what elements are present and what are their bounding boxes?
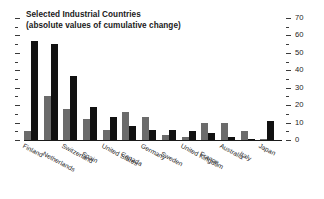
bar-group	[241, 18, 261, 140]
bar-series-gray	[44, 96, 51, 140]
bar-series-black	[31, 41, 38, 140]
axis-tick-major	[286, 70, 291, 71]
bar-series-black	[208, 133, 215, 140]
axis-tick-major	[286, 18, 291, 19]
axis-tick-major	[15, 88, 20, 89]
axis-tick-label: 20	[295, 100, 303, 109]
bar-series-black	[90, 107, 97, 140]
axis-tick-minor	[15, 96, 18, 97]
bar-series-gray	[103, 130, 110, 140]
axis-tick-label: 30	[295, 82, 303, 91]
axis-tick-major	[286, 35, 291, 36]
axis-tick-label: 0	[295, 135, 299, 144]
axis-tick-minor	[286, 79, 289, 80]
axis-tick-label: 10	[295, 117, 303, 126]
bar-group	[142, 18, 162, 140]
axis-tick-minor	[286, 44, 289, 45]
bar-group	[221, 18, 241, 140]
bar-series-gray	[122, 112, 129, 140]
bar-group	[24, 18, 44, 140]
bar-series-black	[149, 130, 156, 140]
bar-group	[201, 18, 221, 140]
bar-series-black	[129, 126, 136, 140]
bar-group	[103, 18, 123, 140]
axis-tick-minor	[286, 62, 289, 63]
axis-tick-minor	[286, 27, 289, 28]
bar-group	[83, 18, 103, 140]
axis-tick-minor	[15, 131, 18, 132]
bar-series-black	[51, 44, 58, 140]
axis-tick-label: 70	[295, 13, 303, 22]
bar-group	[182, 18, 202, 140]
axis-tick-minor	[15, 79, 18, 80]
axis-tick-minor	[286, 114, 289, 115]
axis-tick-major	[286, 140, 291, 141]
axis-tick-major	[15, 140, 20, 141]
bar-series-black	[169, 130, 176, 140]
axis-tick-label: 50	[295, 47, 303, 56]
bar-group	[44, 18, 64, 140]
axis-tick-label: 60	[295, 30, 303, 39]
bar-series-black	[110, 117, 117, 140]
axis-tick-minor	[15, 44, 18, 45]
axis-tick-minor	[15, 62, 18, 63]
bar-series-gray	[83, 119, 90, 140]
y-axis-right: 010203040506070	[286, 18, 287, 140]
bar-series-gray	[241, 131, 248, 140]
x-axis-category-labels: FinlandNetherlandsSwitzerlandSpainUnited…	[24, 142, 284, 198]
plot-area	[24, 18, 280, 140]
bar-group	[260, 18, 280, 140]
bar-series-container	[24, 18, 280, 140]
axis-tick-major	[286, 53, 291, 54]
x-axis-baseline	[24, 140, 282, 141]
axis-tick-minor	[15, 27, 18, 28]
chart-container: Selected Industrial Countries (absolute …	[0, 0, 324, 199]
axis-tick-major	[15, 105, 20, 106]
axis-tick-major	[15, 70, 20, 71]
bar-series-gray	[63, 109, 70, 140]
bar-series-gray	[221, 123, 228, 140]
category-label: Japan	[258, 142, 277, 157]
axis-tick-major	[15, 18, 20, 19]
bar-series-gray	[201, 123, 208, 140]
bar-series-black	[189, 131, 196, 140]
y-axis-left	[20, 18, 21, 140]
axis-tick-major	[15, 53, 20, 54]
axis-tick-minor	[15, 114, 18, 115]
axis-tick-label: 40	[295, 65, 303, 74]
bar-series-gray	[24, 131, 31, 140]
bar-series-gray	[142, 117, 149, 140]
axis-tick-major	[15, 123, 20, 124]
bar-series-black	[70, 76, 77, 140]
axis-tick-major	[15, 35, 20, 36]
axis-tick-major	[286, 123, 291, 124]
bar-group	[162, 18, 182, 140]
bar-series-black	[267, 121, 274, 140]
axis-tick-major	[286, 88, 291, 89]
axis-tick-major	[286, 105, 291, 106]
axis-tick-minor	[286, 96, 289, 97]
bar-group	[63, 18, 83, 140]
axis-tick-minor	[286, 131, 289, 132]
bar-group	[122, 18, 142, 140]
